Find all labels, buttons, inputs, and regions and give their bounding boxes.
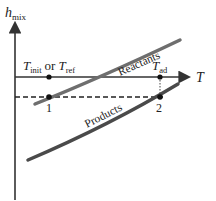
x-axis-label: T <box>196 70 205 85</box>
y-axis-label: hmix <box>5 5 27 22</box>
point-init-on-axis <box>46 74 51 79</box>
point-2 <box>157 94 163 100</box>
point-1 <box>46 94 52 100</box>
point-tad-on-axis <box>157 74 162 79</box>
tinit-or-tref-label: TinitorTref <box>23 58 75 75</box>
enthalpy-temperature-diagram: hmix T TinitorTref Tad Reactants Product… <box>0 0 216 201</box>
point-2-label: 2 <box>156 101 162 115</box>
point-1-label: 1 <box>46 101 52 115</box>
